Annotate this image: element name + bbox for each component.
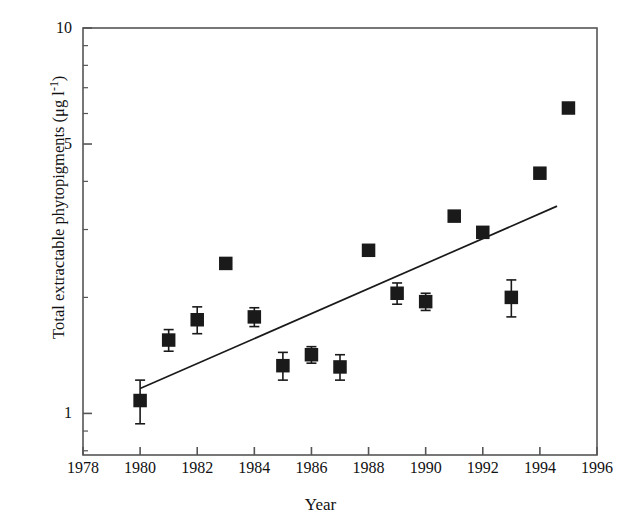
data-point (162, 330, 176, 352)
data-point (419, 293, 433, 310)
x-tick-label: 1978 (67, 459, 99, 477)
data-point (362, 244, 376, 258)
trend-line (140, 206, 557, 388)
data-point (562, 101, 576, 115)
data-marker (390, 287, 404, 301)
data-point (505, 280, 519, 317)
x-tick-label: 1992 (467, 459, 499, 477)
x-tick-label: 1982 (181, 459, 213, 477)
plot-area (0, 0, 641, 530)
data-marker (219, 257, 233, 271)
y-tick-label: 1 (40, 404, 72, 422)
x-tick-label: 1984 (238, 459, 270, 477)
data-marker (276, 359, 290, 373)
data-marker (476, 226, 490, 240)
data-point (219, 257, 233, 271)
chart-figure: Total extractable phytopigments (μg l-1)… (0, 0, 641, 530)
data-marker (162, 333, 176, 347)
data-point (533, 166, 547, 180)
x-tick-label: 1994 (524, 459, 556, 477)
x-tick-label: 1980 (124, 459, 156, 477)
data-marker (447, 209, 461, 223)
data-marker (533, 166, 547, 180)
data-point (305, 347, 319, 364)
data-marker (505, 291, 519, 305)
data-marker (305, 348, 319, 362)
y-tick-label: 5 (40, 135, 72, 153)
data-point (447, 209, 461, 223)
data-point (276, 352, 290, 380)
data-marker (133, 394, 147, 408)
data-point (390, 283, 404, 304)
x-tick-label: 1990 (410, 459, 442, 477)
data-marker (362, 244, 376, 258)
data-point (190, 307, 204, 334)
data-marker (248, 310, 261, 324)
y-tick-label: 10 (40, 19, 72, 37)
data-point (333, 355, 347, 380)
data-marker (190, 313, 204, 327)
data-marker (419, 295, 433, 309)
data-marker (562, 101, 576, 115)
plot-frame (83, 28, 597, 455)
x-tick-label: 1996 (581, 459, 613, 477)
x-tick-label: 1986 (295, 459, 327, 477)
data-point (248, 308, 261, 327)
data-marker (333, 360, 347, 374)
x-tick-label: 1988 (353, 459, 385, 477)
data-point (476, 226, 490, 240)
